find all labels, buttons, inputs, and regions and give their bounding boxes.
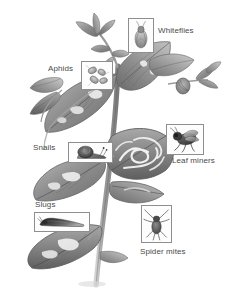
aphid-illustration-icon: [82, 62, 112, 89]
callout-label-spider-mites: Spider mites: [140, 247, 186, 256]
callout-label-aphids: Aphids: [48, 64, 73, 73]
callout-box-snails[interactable]: [68, 142, 113, 163]
callout-label-slugs: Slugs: [35, 200, 56, 209]
callout-box-spider-mites[interactable]: [141, 205, 172, 243]
callout-box-whiteflies[interactable]: [128, 18, 154, 53]
pest-diagram-figure: Whiteflies Aphids: [0, 0, 228, 291]
callout-box-slugs[interactable]: [34, 212, 90, 232]
spider-mite-illustration-icon: [142, 206, 171, 242]
leaf-miner-fly-illustration-icon: [167, 125, 203, 154]
callout-label-whiteflies: Whiteflies: [158, 26, 194, 35]
slug-illustration-icon: [35, 213, 89, 231]
callout-box-aphids[interactable]: [81, 61, 113, 90]
snail-illustration-icon: [69, 143, 112, 162]
callout-box-leaf-miners[interactable]: [166, 124, 204, 155]
whitefly-illustration-icon: [129, 19, 153, 52]
callout-label-leaf-miners: Leaf miners: [172, 156, 215, 165]
callout-label-snails: Snails: [33, 143, 55, 152]
